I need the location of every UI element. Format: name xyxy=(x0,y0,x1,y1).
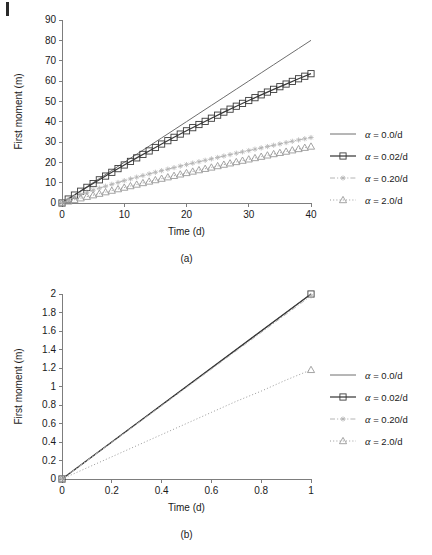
y-tick-label: 1.8 xyxy=(42,307,56,318)
marker-triangle xyxy=(307,143,314,149)
x-tick-label: 30 xyxy=(243,209,255,220)
y-tick-label: 90 xyxy=(45,14,57,25)
x-tick-label: 0.4 xyxy=(155,485,169,496)
legend-label-1: α = 0.02/d xyxy=(365,151,408,162)
marker-asterisk xyxy=(240,149,245,154)
y-axis-title: First moment (m) xyxy=(13,348,24,424)
y-tick-label: 1 xyxy=(50,381,56,392)
marker-asterisk xyxy=(147,171,152,176)
series-line xyxy=(62,146,311,203)
marker-asterisk xyxy=(340,175,345,180)
figure-panel-a: 0102030405060708090010203040Time (d)Firs… xyxy=(0,0,432,272)
legend-label-0: α = 0.0/d xyxy=(365,129,402,140)
marker-asterisk xyxy=(140,173,145,178)
marker-asterisk xyxy=(290,139,295,144)
x-tick-label: 40 xyxy=(305,209,317,220)
x-axis-title: Time (d) xyxy=(168,502,205,513)
x-tick-label: 20 xyxy=(181,209,193,220)
marker-asterisk xyxy=(134,175,139,180)
y-tick-label: 2 xyxy=(50,288,56,299)
legend-label-1: α = 0.02/d xyxy=(365,392,408,403)
marker-asterisk xyxy=(196,159,201,164)
figure-panel-b: 00.20.40.60.811.21.41.61.8200.20.40.60.8… xyxy=(0,272,432,555)
chart-panel-a: 0102030405060708090010203040Time (d)Firs… xyxy=(0,0,432,272)
marker-triangle xyxy=(307,366,314,372)
x-axis-title: Time (d) xyxy=(168,226,205,237)
legend-label-0: α = 0.0/d xyxy=(365,370,402,381)
y-tick-label: 80 xyxy=(45,35,57,46)
marker-asterisk xyxy=(128,176,133,181)
legend-label-3: α = 2.0/d xyxy=(365,436,402,447)
y-tick-label: 10 xyxy=(45,177,57,188)
marker-asterisk xyxy=(227,152,232,157)
y-tick-label: 1.2 xyxy=(42,362,56,373)
marker-asterisk xyxy=(165,167,170,172)
y-tick-label: 60 xyxy=(45,75,57,86)
legend-marker-2 xyxy=(340,175,345,180)
y-tick-label: 0.2 xyxy=(42,455,56,466)
marker-asterisk xyxy=(221,153,226,158)
marker-asterisk xyxy=(259,145,264,150)
x-tick-label: 0.8 xyxy=(254,485,268,496)
panel-caption: (a) xyxy=(180,253,192,264)
x-tick-label: 0 xyxy=(59,485,65,496)
marker-asterisk xyxy=(171,165,176,170)
series-2 xyxy=(59,293,313,481)
series-line xyxy=(62,294,311,479)
marker-asterisk xyxy=(178,163,183,168)
marker-asterisk xyxy=(203,158,208,163)
series-1 xyxy=(59,71,314,207)
marker-asterisk xyxy=(215,155,220,160)
y-tick-label: 0 xyxy=(50,197,56,208)
y-tick-label: 70 xyxy=(45,55,57,66)
x-tick-label: 0.6 xyxy=(204,485,218,496)
series-2 xyxy=(59,135,313,206)
marker-asterisk xyxy=(184,162,189,167)
marker-asterisk xyxy=(265,144,270,149)
y-tick-label: 20 xyxy=(45,157,57,168)
legend-label-2: α = 0.20/d xyxy=(365,173,408,184)
marker-asterisk xyxy=(340,416,345,421)
x-tick-label: 0 xyxy=(59,209,65,220)
y-tick-label: 40 xyxy=(45,116,57,127)
y-tick-label: 0 xyxy=(50,473,56,484)
marker-asterisk xyxy=(190,161,195,166)
legend-label-3: α = 2.0/d xyxy=(365,195,402,206)
marker-asterisk xyxy=(234,151,239,156)
chart-panel-b: 00.20.40.60.811.21.41.61.8200.20.40.60.8… xyxy=(0,272,432,555)
y-tick-label: 0.8 xyxy=(42,399,56,410)
legend-label-2: α = 0.20/d xyxy=(365,414,408,425)
x-tick-label: 1 xyxy=(308,485,314,496)
marker-asterisk xyxy=(302,136,307,141)
legend-marker-2 xyxy=(340,416,345,421)
series-3 xyxy=(58,366,314,481)
marker-asterisk xyxy=(277,141,282,146)
y-axis-title: First moment (m) xyxy=(13,73,24,149)
marker-asterisk xyxy=(159,168,164,173)
x-tick-label: 0.2 xyxy=(105,485,119,496)
series-line xyxy=(62,74,311,203)
panel-caption: (b) xyxy=(180,529,192,540)
marker-asterisk xyxy=(284,140,289,145)
marker-asterisk xyxy=(271,143,276,148)
series-3 xyxy=(58,143,314,206)
marker-asterisk xyxy=(252,147,257,152)
marker-asterisk xyxy=(209,156,214,161)
marker-asterisk xyxy=(296,137,301,142)
y-tick-label: 1.6 xyxy=(42,325,56,336)
series-line xyxy=(62,40,311,203)
marker-asterisk xyxy=(122,178,127,183)
y-tick-label: 30 xyxy=(45,136,57,147)
y-tick-label: 0.4 xyxy=(42,436,56,447)
y-tick-label: 1.4 xyxy=(42,344,56,355)
series-0 xyxy=(62,40,311,203)
x-tick-label: 10 xyxy=(119,209,131,220)
marker-asterisk xyxy=(153,170,158,175)
marker-asterisk xyxy=(308,135,313,140)
marker-asterisk xyxy=(115,180,120,185)
marker-asterisk xyxy=(246,148,251,153)
y-tick-label: 50 xyxy=(45,96,57,107)
y-tick-label: 0.6 xyxy=(42,418,56,429)
